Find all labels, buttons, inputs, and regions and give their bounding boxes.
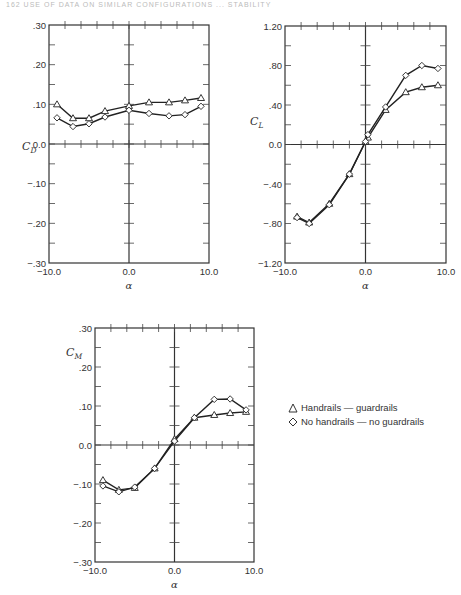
x-axis-label: α: [126, 280, 133, 291]
x-tick-label: 0.0: [168, 565, 181, 576]
diamond-marker-icon: [54, 115, 60, 121]
y-tick-label: −.80: [263, 218, 282, 229]
diamond-marker-icon: [86, 121, 92, 127]
charts-canvas: .30.20.100.0−.10−.20−.30−10.00.010.0αCD1…: [0, 0, 461, 595]
diamond-marker-icon: [182, 111, 188, 117]
y-tick-label: .20: [79, 362, 92, 373]
y-tick-label: .20: [33, 59, 46, 70]
legend-label: No handrails — no guardrails: [301, 415, 424, 429]
diamond-marker-icon: [419, 62, 425, 68]
triangle-marker-icon: [198, 94, 205, 100]
y-tick-label: .40: [269, 100, 282, 111]
triangle-marker-icon: [288, 403, 298, 413]
y-tick-label: .30: [33, 20, 46, 31]
y-tick-label: −.10: [27, 178, 46, 189]
y-tick-label: .10: [79, 401, 92, 412]
triangle-marker-icon: [434, 82, 441, 88]
y-tick-label: .80: [269, 60, 282, 71]
legend-item-no-handrails: No handrails — no guardrails: [288, 415, 424, 429]
y-tick-label: 0.0: [269, 139, 282, 150]
triangle-marker-icon: [99, 477, 106, 483]
legend-label: Handrails — guardrails: [301, 401, 398, 415]
diamond-marker-icon: [70, 123, 76, 129]
diamond-marker-icon: [288, 417, 298, 427]
diamond-marker-icon: [146, 110, 152, 116]
chart-c-d: .30.20.100.0−.10−.20−.30−10.00.010.0αCD: [22, 20, 218, 292]
x-tick-label: 10.0: [245, 565, 264, 576]
y-tick-label: −.20: [73, 518, 92, 529]
x-axis-label: α: [362, 280, 369, 291]
y-tick-label: −.40: [263, 179, 282, 190]
y-tick-label: −.10: [73, 479, 92, 490]
x-tick-label: 0.0: [122, 266, 135, 277]
y-tick-label: −.20: [27, 218, 46, 229]
y-tick-label: .30: [79, 323, 92, 334]
chart-c-m: .30.20.100.0−.10−.20−.30−10.00.010.0αCM: [66, 323, 263, 591]
diamond-marker-icon: [294, 214, 300, 220]
y-axis-label: CL: [250, 115, 263, 130]
diamond-marker-icon: [102, 114, 108, 120]
legend: Handrails — guardrails No handrails — no…: [288, 401, 424, 429]
y-axis-label: CM: [66, 346, 82, 361]
diamond-marker-icon: [166, 113, 172, 119]
x-tick-label: 10.0: [200, 266, 219, 277]
y-tick-label: 0.0: [79, 440, 92, 451]
x-axis-label: α: [171, 579, 178, 590]
diamond-marker-icon: [435, 65, 441, 71]
triangle-marker-icon: [54, 101, 61, 107]
x-tick-label: 0.0: [359, 266, 372, 277]
chart-c-l: 1.20.80.400.0−.40−.80−1.20−10.00.010.0αC…: [250, 21, 455, 292]
x-tick-label: 10.0: [437, 266, 456, 277]
x-tick-label: −10.0: [37, 266, 61, 277]
y-tick-label: .10: [33, 99, 46, 110]
x-tick-label: −10.0: [83, 565, 107, 576]
y-tick-label: 1.20: [264, 21, 283, 32]
x-tick-label: −10.0: [273, 266, 297, 277]
legend-item-handrails: Handrails — guardrails: [288, 401, 424, 415]
series-line: [297, 85, 438, 222]
